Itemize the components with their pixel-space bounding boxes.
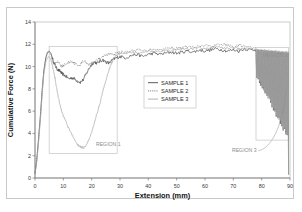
x-tick-label: 60 — [202, 183, 208, 189]
x-tick-label: 90 — [287, 183, 293, 189]
y-tick-label: 6 — [28, 108, 31, 114]
legend-label: SAMPLE 3 — [161, 96, 188, 102]
x-tick-label: 70 — [230, 183, 236, 189]
chart-figure: 024681012140102030405060708090Extension … — [0, 0, 302, 212]
x-tick-label: 30 — [117, 183, 123, 189]
y-tick-label: 0 — [28, 175, 31, 181]
x-tick-label: 10 — [60, 183, 66, 189]
y-tick-label: 12 — [25, 41, 31, 47]
y-tick-label: 10 — [25, 64, 31, 70]
region-label: REGION 1 — [96, 141, 121, 147]
y-tick-label: 14 — [25, 19, 31, 25]
x-tick-label: 50 — [174, 183, 180, 189]
x-tick-label: 40 — [145, 183, 151, 189]
legend-label: SAMPLE 2 — [161, 88, 188, 94]
region-label: REGION 3 — [232, 147, 257, 153]
x-tick-label: 80 — [259, 183, 265, 189]
x-tick-label: 0 — [34, 183, 37, 189]
x-tick-label: 20 — [89, 183, 95, 189]
legend-label: SAMPLE 1 — [161, 80, 188, 86]
y-tick-label: 8 — [28, 86, 31, 92]
y-axis-title: Cumulative Force (N) — [6, 62, 15, 137]
line-chart: 024681012140102030405060708090Extension … — [0, 0, 302, 212]
y-tick-label: 4 — [28, 130, 31, 136]
y-tick-label: 2 — [28, 153, 31, 159]
x-axis-title: Extension (mm) — [135, 191, 191, 200]
